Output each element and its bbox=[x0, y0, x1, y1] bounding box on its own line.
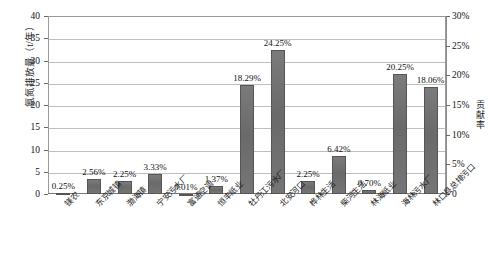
y-tick-label-right: 15% bbox=[452, 100, 486, 110]
bar-value-label: 2.56% bbox=[82, 167, 105, 177]
y-tick-mark-left bbox=[44, 16, 48, 17]
bar-value-label: 18.29% bbox=[233, 73, 261, 83]
y-tick-label-left: 30 bbox=[0, 56, 40, 66]
bar-value-label: 18.06% bbox=[417, 75, 445, 85]
y-tick-mark-right bbox=[446, 16, 450, 17]
y-tick-label-right: 25% bbox=[452, 41, 486, 51]
y-tick-label-left: 40 bbox=[0, 11, 40, 21]
y-tick-mark-right bbox=[446, 135, 450, 136]
y-tick-label-right: 30% bbox=[452, 11, 486, 21]
y-tick-label-left: 10 bbox=[0, 145, 40, 155]
y-tick-mark-right bbox=[446, 75, 450, 76]
bar-value-label: 3.33% bbox=[144, 162, 167, 172]
y-tick-label-left: 0 bbox=[0, 189, 40, 199]
y-tick-label-right: 20% bbox=[452, 70, 486, 80]
y-tick-mark-right bbox=[446, 105, 450, 106]
y-tick-mark-left bbox=[44, 150, 48, 151]
bar-value-label: 6.42% bbox=[327, 144, 350, 154]
y-tick-label-left: 35 bbox=[0, 33, 40, 43]
y-tick-mark-left bbox=[44, 127, 48, 128]
y-tick-mark-left bbox=[44, 61, 48, 62]
bar-value-label: 2.25% bbox=[113, 169, 136, 179]
chart-figure: 氨氮排放量（t/年） 贡献率 0510152025303540 05%10%15… bbox=[0, 0, 500, 273]
bar bbox=[240, 85, 254, 194]
y-tick-mark-left bbox=[44, 172, 48, 173]
bar bbox=[393, 74, 407, 194]
y-tick-mark-left bbox=[44, 38, 48, 39]
y-tick-mark-left bbox=[44, 83, 48, 84]
y-tick-label-left: 15 bbox=[0, 122, 40, 132]
bar-value-label: 2.25% bbox=[297, 169, 320, 179]
y-tick-label-left: 20 bbox=[0, 100, 40, 110]
y-tick-label-left: 25 bbox=[0, 78, 40, 88]
y-tick-label-right: 10% bbox=[452, 130, 486, 140]
gridline bbox=[49, 39, 445, 40]
y-tick-mark-right bbox=[446, 46, 450, 47]
y-tick-label-right: 0 bbox=[452, 189, 486, 199]
y-tick-mark-right bbox=[446, 164, 450, 165]
y-tick-label-left: 5 bbox=[0, 167, 40, 177]
bar-value-label: 24.25% bbox=[264, 38, 292, 48]
bar-value-label: 20.25% bbox=[386, 62, 414, 72]
y-tick-mark-left bbox=[44, 105, 48, 106]
y-tick-mark-left bbox=[44, 194, 48, 195]
